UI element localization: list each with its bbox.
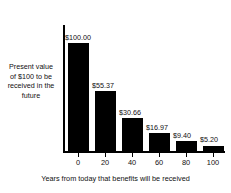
x-axis-title: Years from today that benefits will be r… xyxy=(0,174,231,183)
x-tick-label-3: 60 xyxy=(146,158,172,167)
x-tick-label-4: 80 xyxy=(173,158,199,167)
x-tick-5 xyxy=(213,153,214,157)
x-axis-spine xyxy=(63,151,225,153)
bar-value-label: $5.20 xyxy=(200,136,231,144)
x-tick-4 xyxy=(186,153,187,157)
bar-value-label: $100.00 xyxy=(65,34,99,42)
bar-value-label: $30.66 xyxy=(119,109,153,117)
bar[interactable] xyxy=(95,91,116,151)
plot-area: $100.00 $55.37 $30.66 $16.97 $9.40 $5.20 xyxy=(63,25,225,153)
x-tick-1 xyxy=(105,153,106,157)
bar-value-label: $55.37 xyxy=(92,82,126,90)
present-value-bar-chart: Present value of $100 to be received in … xyxy=(0,0,231,193)
x-tick-0 xyxy=(78,153,79,157)
x-tick-label-0: 0 xyxy=(65,158,91,167)
bar[interactable] xyxy=(149,133,170,151)
x-tick-2 xyxy=(132,153,133,157)
bar[interactable] xyxy=(68,43,89,151)
y-axis-title: Present value of $100 to be received in … xyxy=(2,62,60,100)
x-tick-3 xyxy=(159,153,160,157)
x-tick-label-1: 20 xyxy=(92,158,118,167)
x-tick-label-2: 40 xyxy=(119,158,145,167)
bar[interactable] xyxy=(122,118,143,151)
x-tick-label-5: 100 xyxy=(200,158,226,167)
bar[interactable] xyxy=(176,141,197,151)
y-axis-spine xyxy=(63,25,65,153)
bar[interactable] xyxy=(203,146,224,152)
